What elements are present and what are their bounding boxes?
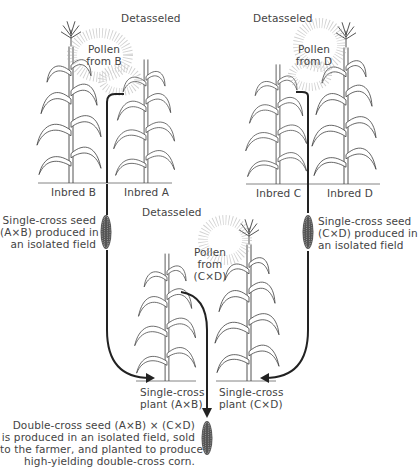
pollen-cd-line2: from xyxy=(190,258,230,270)
label-single-cross-plant-ab: Single-cross plant (A×B) xyxy=(140,386,205,410)
label-detasseled-ab: Detasseled xyxy=(142,206,202,218)
label-pollen-from-d: Pollen from D xyxy=(294,43,334,67)
label-single-cross-plant-cd: Single-cross plant (C×D) xyxy=(219,386,284,410)
seed-ab-line1: Single-cross seed xyxy=(0,214,96,226)
label-pollen-from-cd: Pollen from (C×D) xyxy=(190,246,230,282)
label-detasseled-c: Detasseled xyxy=(253,12,313,24)
caption-single-cross-seed-cd: Single-cross seed (C×D) produced in an i… xyxy=(318,215,418,251)
plant-cd-line1: Single-cross xyxy=(219,386,284,398)
caption-single-cross-seed-ab: Single-cross seed (A×B) produced in an i… xyxy=(0,214,96,250)
label-inbred-c: Inbred C xyxy=(256,187,301,199)
seed-cd-line2: (C×D) produced in xyxy=(318,227,418,239)
pollen-cd-line1: Pollen xyxy=(190,246,230,258)
label-inbred-a: Inbred A xyxy=(124,186,169,198)
double-cross-line3: to the farmer, and planted to produce xyxy=(0,443,195,455)
arrow-path-cd-to-plant xyxy=(265,251,308,378)
label-detasseled-a: Detasseled xyxy=(121,12,181,24)
seed-cd-line3: an isolated field xyxy=(318,239,418,251)
double-cross-line1: Double-cross seed (A×B) × (C×D) xyxy=(0,419,195,431)
double-cross-line2: is produced in an isolated field, sold xyxy=(0,431,195,443)
label-pollen-from-b: Pollen from B xyxy=(84,43,124,67)
plant-inbred-c xyxy=(246,64,307,184)
seed-cob-double-cross-icon xyxy=(202,421,213,455)
plant-ab-line1: Single-cross xyxy=(140,386,205,398)
double-cross-line4: high-yielding double-cross corn. xyxy=(0,455,195,467)
pollen-cd-line3: (C×D) xyxy=(190,270,230,282)
label-inbred-b: Inbred B xyxy=(51,186,96,198)
seed-ab-line3: an isolated field xyxy=(0,238,96,250)
pollen-d-line1: Pollen xyxy=(294,43,334,55)
plant-single-cross-ab xyxy=(135,254,196,381)
caption-double-cross-seed: Double-cross seed (A×B) × (C×D) is produ… xyxy=(0,419,195,467)
seed-cob-cd-icon xyxy=(303,215,314,249)
label-inbred-d: Inbred D xyxy=(327,187,373,199)
pollen-b-line2: from B xyxy=(84,55,124,67)
plant-cd-line2: plant (C×D) xyxy=(219,398,284,410)
seed-cd-line1: Single-cross seed xyxy=(318,215,418,227)
seed-ab-line2: (A×B) produced in xyxy=(0,226,96,238)
arrow-head-right xyxy=(260,373,269,383)
arrow-path-ab-to-plant xyxy=(107,250,150,378)
seed-cob-ab-icon xyxy=(101,215,112,249)
pollen-d-line2: from D xyxy=(294,55,334,67)
plant-ab-line2: plant (A×B) xyxy=(140,398,205,410)
plant-inbred-a xyxy=(114,59,175,183)
pollen-b-line1: Pollen xyxy=(84,43,124,55)
arrow-head-left xyxy=(146,373,155,383)
